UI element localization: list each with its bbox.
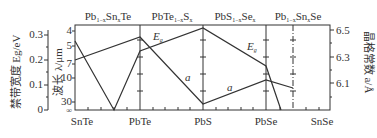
eg-axis-label: 禁带宽度 Eg/eV bbox=[9, 35, 22, 110]
eg-tick-0: 0 bbox=[38, 103, 44, 115]
series-a bbox=[75, 37, 293, 104]
a-tick-6.1: 6.1 bbox=[336, 77, 350, 89]
lattice-axis-label: 晶格常数 a/Å bbox=[363, 31, 376, 94]
eg-label-2: Eg bbox=[246, 40, 257, 53]
a-label-1: a bbox=[185, 71, 191, 83]
wavelength-axis-label: 波长 λ/μm bbox=[52, 48, 64, 96]
eg-tick-1: 0.1 bbox=[29, 78, 43, 90]
section-dividers bbox=[140, 25, 293, 110]
x-label-pbse: PbSe bbox=[255, 115, 278, 127]
eg-axis bbox=[44, 30, 48, 110]
lattice-axis bbox=[330, 30, 334, 97]
x-label-snte: SnTe bbox=[71, 115, 94, 127]
section-header-3: PbS1−xSex bbox=[214, 10, 255, 23]
a-tick-6.5: 6.5 bbox=[336, 24, 350, 36]
a-label-2: a bbox=[227, 81, 233, 93]
wl-tick-inf: ∞ bbox=[66, 106, 72, 115]
x-label-pbs: PbS bbox=[194, 115, 212, 127]
section-header-2: PbTe1−xSx bbox=[152, 10, 193, 23]
section-header-4: Pb1−xSnxSe bbox=[275, 10, 322, 23]
chart: 0 0.1 0.2 0.3 禁带宽度 Eg/eV 4 5 7 10 30 ∞ 波… bbox=[0, 0, 377, 138]
x-label-snse: SnSe bbox=[311, 115, 334, 127]
eg-label-1: Eg bbox=[152, 30, 163, 43]
eg-tick-2: 0.2 bbox=[29, 53, 43, 65]
eg-tick-3: 0.3 bbox=[29, 28, 43, 40]
wl-tick-4: 4 bbox=[67, 24, 73, 36]
wl-tick-5: 5 bbox=[67, 39, 73, 51]
a-tick-6.3: 6.3 bbox=[336, 51, 350, 63]
x-label-pbte: PbTe bbox=[129, 115, 152, 127]
section-header-1: Pb1−xSnxTe bbox=[85, 10, 132, 23]
wl-tick-7: 7 bbox=[67, 57, 73, 69]
